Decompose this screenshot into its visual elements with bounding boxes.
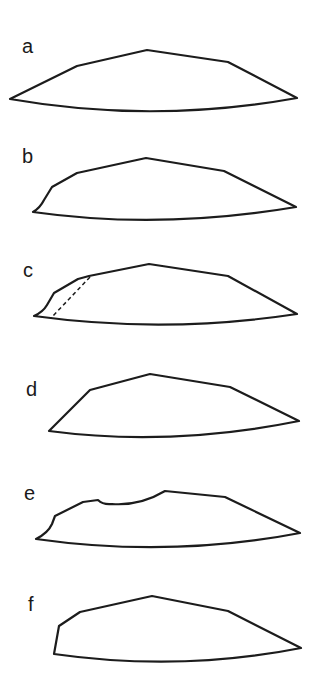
panel-label-a: a [22,36,33,56]
panel-label-c: c [23,260,33,280]
panel-label-d: d [26,379,37,399]
outline-e [36,491,300,547]
outline-f [54,596,301,662]
outline-drawings [0,0,318,692]
flake-outline-figure: a b c d e f [0,0,318,692]
outline-d [49,374,299,437]
outline-b [33,158,296,220]
panel-label-e: e [24,483,35,503]
outline-a [10,50,297,111]
panel-label-f: f [28,594,34,614]
panel-label-b: b [22,146,33,166]
